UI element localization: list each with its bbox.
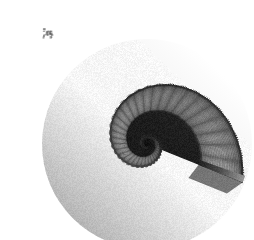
ammonite-fossil-photo: Grayscale photograph of a planispiral am…: [40, 16, 254, 240]
ammonite-shell-canvas: [40, 16, 254, 240]
